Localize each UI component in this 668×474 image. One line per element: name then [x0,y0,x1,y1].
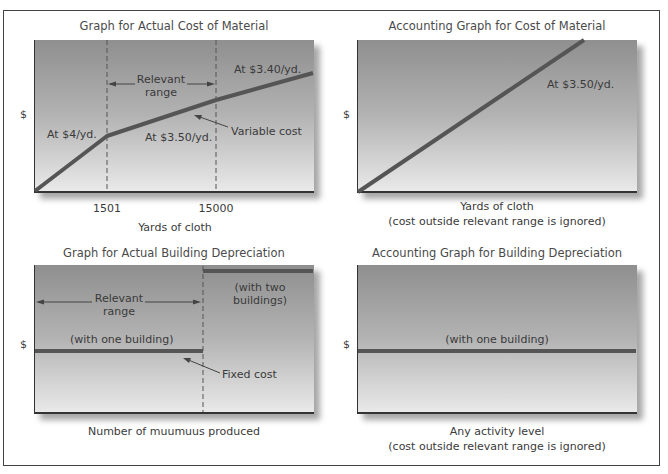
panel-br-x-note: (cost outside relevant range is ignored) [367,440,627,453]
panel-br-x-label: Any activity level [397,425,597,438]
panel-br-lines [0,0,668,474]
br-one-building-label: (with one building) [427,333,567,346]
